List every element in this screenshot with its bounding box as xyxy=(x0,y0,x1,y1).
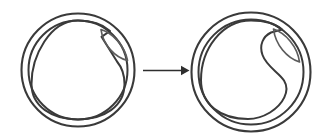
transformation-arrow xyxy=(143,66,190,75)
left-vesicle xyxy=(22,14,135,127)
left-outer-membrane-circle xyxy=(22,14,135,127)
figure-container: Schematic transformation of a circular v… xyxy=(0,0,329,140)
left-cytoplasm-contour xyxy=(32,21,125,120)
arrow-head xyxy=(181,66,190,75)
right-vesicle xyxy=(192,13,311,132)
right-outer-membrane-circle xyxy=(192,13,311,132)
diagram-canvas xyxy=(0,0,329,140)
